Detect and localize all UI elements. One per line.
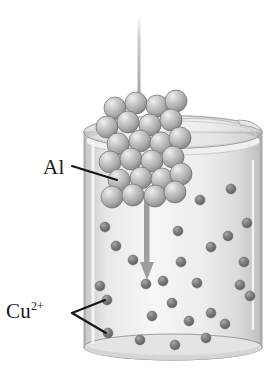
aluminum-sphere — [120, 148, 142, 170]
copper-ion-sphere — [223, 231, 233, 241]
aluminum-sphere — [101, 186, 123, 208]
copper-ion-sphere — [239, 257, 249, 267]
copper-ion-label-base: Cu — [6, 299, 31, 323]
copper-ion-sphere — [147, 311, 157, 321]
aluminum-sphere — [122, 184, 144, 206]
copper-ion-sphere — [206, 308, 216, 318]
copper-ion-sphere — [226, 184, 236, 194]
copper-ion-sphere — [158, 276, 168, 286]
copper-ion-sphere — [195, 195, 205, 205]
aluminum-label: Al — [43, 157, 65, 178]
copper-ion-sphere — [201, 333, 211, 343]
copper-ion-sphere — [141, 279, 151, 289]
copper-ion-label-charge: 2+ — [31, 299, 44, 313]
copper-ion-sphere — [95, 281, 105, 291]
copper-ion-sphere — [128, 255, 138, 265]
copper-ion-sphere — [245, 291, 255, 301]
copper-ion-sphere — [170, 340, 180, 350]
copper-ion-label: Cu2+ — [6, 300, 44, 322]
copper-ion-sphere — [192, 278, 202, 288]
aluminum-sphere — [165, 90, 187, 112]
copper-ion-sphere — [167, 298, 177, 308]
figure-canvas: Al Cu2+ — [0, 0, 276, 386]
aluminum-sphere — [164, 181, 186, 203]
aluminum-label-text: Al — [43, 155, 65, 179]
copper-ion-sphere — [206, 242, 216, 252]
copper-ion-sphere — [235, 280, 245, 290]
copper-ion-sphere — [176, 257, 186, 267]
copper-ion-sphere — [100, 222, 110, 232]
chemistry-diagram-svg — [0, 0, 276, 386]
aluminum-sphere — [117, 111, 139, 133]
copper-ion-sphere — [220, 319, 230, 329]
copper-ion-sphere — [242, 218, 252, 228]
aluminum-sphere — [144, 185, 166, 207]
copper-ion-sphere — [135, 335, 145, 345]
copper-ion-sphere — [184, 316, 194, 326]
copper-ion-sphere — [111, 241, 121, 251]
copper-ion-sphere — [173, 226, 183, 236]
